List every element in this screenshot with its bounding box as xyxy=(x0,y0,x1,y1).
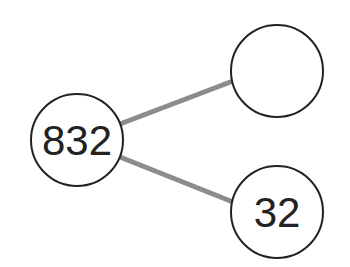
node-part-bottom-label: 32 xyxy=(254,189,301,236)
number-bond-diagram: 832 32 xyxy=(0,0,350,267)
edge-whole-to-top xyxy=(120,81,233,124)
node-whole-label: 832 xyxy=(42,117,112,164)
edge-whole-to-bottom xyxy=(120,157,233,202)
node-part-top[interactable] xyxy=(231,25,323,117)
node-part-bottom: 32 xyxy=(231,166,323,258)
node-whole: 832 xyxy=(31,94,123,186)
node-part-top-circle[interactable] xyxy=(231,25,323,117)
